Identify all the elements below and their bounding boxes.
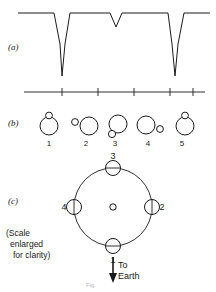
orbit-position-1 — [106, 239, 121, 254]
central-body — [110, 204, 116, 210]
orbit-position-2 — [145, 200, 160, 215]
orbit-position-4 — [67, 200, 82, 215]
orbit-position-3 — [106, 161, 121, 176]
scale-note: (Scale enlarged for clarity) — [6, 228, 76, 261]
figure-page: (a) 1 2 3 4 5 (b) 1 — [0, 0, 216, 292]
orbit-position-4-label: 4 — [61, 202, 66, 212]
orbit-position-2-label: 2 — [159, 202, 164, 212]
orbit-position-3-label: 3 — [110, 151, 115, 161]
to-earth-label-line-2: Earth — [118, 271, 140, 282]
to-earth-label: To Earth — [118, 260, 140, 281]
scale-note-line-3: for clarity) — [6, 250, 76, 261]
scale-note-line-1: (Scale — [6, 228, 76, 239]
scale-note-line-2: enlarged — [6, 239, 76, 250]
to-earth-label-line-1: To — [118, 260, 140, 271]
figure-caption: Fig. — [86, 282, 96, 288]
